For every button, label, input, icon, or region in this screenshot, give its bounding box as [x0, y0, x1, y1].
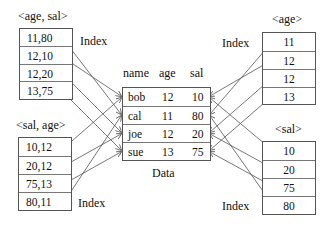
index-sal: 10 20 75 80	[262, 141, 316, 215]
index-entry: 20	[263, 160, 315, 178]
index-entry: 13	[263, 87, 315, 105]
index-label: Index	[80, 34, 107, 48]
table-row: bob 12 10	[123, 88, 210, 106]
index-entry: 13,75	[20, 81, 72, 99]
index-entry: 12	[263, 51, 315, 69]
column-header-age: age	[159, 66, 176, 80]
index-age-sal: 11,80 12,10 12,20 13,75	[19, 28, 73, 100]
index-entry: 80,11	[19, 192, 71, 210]
index-entry: 11,80	[20, 29, 72, 46]
index-sal-age: 10,12 20,12 75,13 80,11	[18, 137, 72, 211]
column-header-sal: sal	[190, 66, 203, 80]
column-header-name: name	[123, 66, 149, 80]
data-table: bob 12 10 cal 11 80 joe 12 20 sue 13 75	[122, 87, 211, 161]
table-row: cal 11 80	[123, 106, 210, 124]
index-entry: 80	[263, 196, 315, 214]
index-entry: 75,13	[19, 174, 71, 192]
index-age: 11 12 12 13	[262, 32, 316, 105]
index-entry: 10	[263, 142, 315, 160]
index-entry: 11	[263, 33, 315, 51]
table-row: joe 12 20	[123, 124, 210, 142]
index-entry: 12,10	[20, 46, 72, 64]
data-caption: Data	[152, 166, 175, 180]
index-entry: 10,12	[19, 138, 71, 156]
index-entry: 75	[263, 178, 315, 196]
index-title-age-sal: <age, sal>	[18, 9, 68, 23]
index-label: Index	[222, 36, 249, 50]
index-label: Index	[78, 196, 105, 210]
index-title-sal-age: <sal, age>	[16, 118, 66, 132]
index-entry: 12	[263, 69, 315, 87]
index-entry: 20,12	[19, 156, 71, 174]
index-title-age: <age>	[272, 12, 302, 26]
table-row: sue 13 75	[123, 142, 210, 160]
index-entry: 12,20	[20, 64, 72, 82]
index-label: Index	[222, 199, 249, 213]
index-title-sal: <sal>	[275, 122, 302, 136]
